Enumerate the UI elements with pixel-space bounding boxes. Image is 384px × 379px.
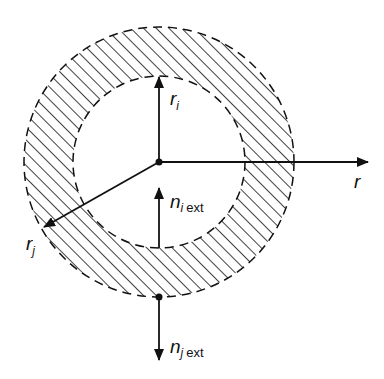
- hatched-annulus: [0, 0, 384, 379]
- outer-bottom-point: [156, 294, 163, 301]
- annulus-diagram: ri rj r niext njext: [0, 0, 384, 379]
- diagram-canvas: ri rj r niext njext: [0, 0, 384, 379]
- center-point: [156, 159, 163, 166]
- label-r-axis: r: [354, 171, 361, 192]
